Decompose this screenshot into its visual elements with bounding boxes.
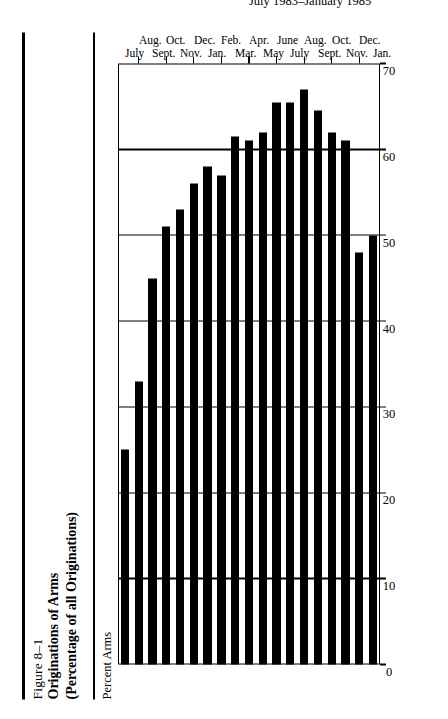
x-tick-label-16: Nov. — [346, 46, 368, 58]
y-tick-label-0: 0 — [386, 664, 392, 679]
bar-8 — [231, 136, 239, 664]
x-tick-3 — [166, 56, 167, 63]
bar-2 — [148, 278, 156, 664]
y-tick-label-30: 30 — [383, 406, 396, 421]
x-tick-label-14: Sept. — [318, 46, 341, 58]
bar-12 — [286, 102, 294, 664]
bar-14 — [314, 110, 322, 664]
x-tick-label-6: Jan. — [208, 46, 226, 58]
x-tick-1 — [138, 56, 139, 63]
x-tick-17 — [359, 56, 360, 63]
x-tick-label-10: May — [263, 46, 284, 58]
x-tick-label-9: Apr. — [249, 33, 269, 45]
x-tick-label-13: Aug. — [304, 33, 327, 45]
figure-page: Figure 8–1 Originations of Arms (Percent… — [0, 0, 448, 719]
bar-4 — [176, 209, 184, 664]
bar-15 — [328, 132, 336, 664]
title-rule-top — [22, 32, 25, 699]
y-tick-label-10: 10 — [383, 578, 396, 593]
x-tick-label-11: June — [277, 33, 298, 45]
bar-6 — [203, 166, 211, 664]
x-tick-label-1: Aug. — [139, 33, 162, 45]
y-tick-label-50: 50 — [383, 235, 396, 250]
x-tick-label-8: Mar. — [235, 46, 256, 58]
y-tick-label-60: 60 — [383, 149, 396, 164]
bar-7 — [217, 175, 225, 664]
x-axis-title: July 1983–January 1985 — [249, 0, 371, 9]
x-tick-label-15: Oct. — [332, 33, 351, 45]
x-tick-label-0: July — [125, 46, 144, 58]
bar-3 — [162, 226, 170, 664]
x-tick-5 — [193, 56, 194, 63]
x-tick-label-4: Nov. — [180, 46, 202, 58]
title-rule-bottom — [93, 32, 95, 699]
bar-1 — [135, 381, 143, 664]
y-axis-title: Percent Arms — [100, 631, 115, 699]
bar-16 — [341, 140, 349, 664]
bar-0 — [121, 449, 129, 664]
bar-9 — [245, 140, 253, 664]
bar-5 — [190, 183, 198, 664]
x-tick-label-12: July — [290, 46, 309, 58]
figure-subtitle: (Percentage of all Originations) — [64, 511, 80, 699]
x-tick-label-5: Dec. — [194, 33, 215, 45]
x-tick-15 — [331, 56, 332, 63]
y-tick-label-20: 20 — [383, 492, 396, 507]
x-tick-13 — [304, 56, 305, 63]
y-tick-label-70: 70 — [383, 63, 396, 78]
figure-title: Originations of Arms — [46, 572, 62, 699]
x-tick-label-2: Sept. — [152, 46, 175, 58]
x-tick-label-3: Oct. — [166, 33, 185, 45]
x-tick-label-18: Jan. — [373, 46, 391, 58]
bar-11 — [272, 102, 280, 664]
bar-10 — [259, 132, 267, 664]
bar-13 — [300, 89, 308, 664]
chart-plot-area: 010203040506070JulyAug.Sept.Oct.Nov.Dec.… — [118, 63, 380, 664]
x-tick-11 — [276, 56, 277, 63]
x-tick-7 — [221, 56, 222, 63]
x-tick-9 — [248, 56, 249, 63]
figure-number: Figure 8–1 — [30, 638, 46, 699]
bar-17 — [355, 252, 363, 664]
y-tick-label-40: 40 — [383, 321, 396, 336]
x-tick-label-17: Dec. — [359, 33, 380, 45]
bar-18 — [369, 235, 377, 664]
x-tick-label-7: Feb. — [221, 33, 241, 45]
